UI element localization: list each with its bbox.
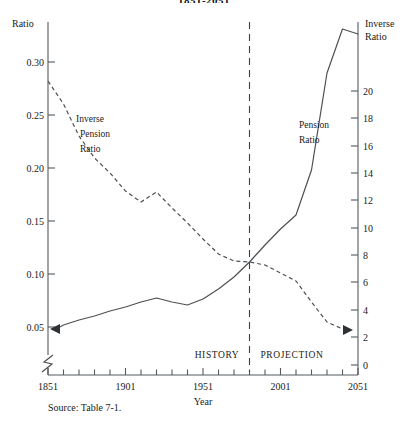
right-axis-ticks bbox=[351, 91, 358, 365]
left-tick-label-020: 0.20 bbox=[27, 163, 45, 174]
chart-plot-area: 0.30 0.25 0.20 0.15 0.10 0.05 Ratio 20 1… bbox=[0, 0, 408, 425]
inverse-pension-ratio-label-line1: Inverse bbox=[76, 114, 104, 124]
pension-ratio-arrow-icon bbox=[50, 324, 60, 334]
right-tick-label-4: 4 bbox=[363, 305, 368, 316]
inverse-pension-ratio-label-line3: Ratio bbox=[80, 144, 101, 154]
source-note: Source: Table 7-1. bbox=[48, 402, 121, 413]
inverse-pension-ratio-label-line2: Pension bbox=[80, 129, 110, 139]
right-axis-title-line2: Ratio bbox=[365, 31, 387, 42]
right-tick-label-16: 16 bbox=[363, 141, 373, 152]
left-tick-label-030: 0.30 bbox=[27, 57, 45, 68]
bottom-axis-title: Year bbox=[194, 396, 213, 407]
left-axis-title: Ratio bbox=[12, 18, 34, 29]
left-tick-label-010: 0.10 bbox=[27, 269, 45, 280]
right-tick-label-8: 8 bbox=[363, 250, 368, 261]
right-tick-label-0: 0 bbox=[363, 360, 368, 371]
bottom-tick-label-2001: 2001 bbox=[271, 381, 291, 392]
left-axis-ticks bbox=[48, 62, 55, 327]
left-tick-label-025: 0.25 bbox=[27, 110, 45, 121]
right-tick-label-12: 12 bbox=[363, 195, 373, 206]
left-tick-label-005: 0.05 bbox=[27, 322, 45, 333]
projection-label: PROJECTION bbox=[260, 350, 323, 360]
inverse-pension-ratio-arrow-icon bbox=[343, 325, 353, 335]
right-tick-label-6: 6 bbox=[363, 277, 368, 288]
right-axis-title-line1: Inverse bbox=[365, 18, 395, 29]
bottom-tick-label-1901: 1901 bbox=[116, 381, 136, 392]
history-label: HISTORY bbox=[195, 350, 240, 360]
right-tick-label-2: 2 bbox=[363, 332, 368, 343]
bottom-tick-label-2051: 2051 bbox=[348, 381, 368, 392]
right-tick-label-18: 18 bbox=[363, 113, 373, 124]
bottom-tick-label-1851: 1851 bbox=[38, 381, 58, 392]
pension-ratio-line bbox=[56, 29, 358, 329]
pension-ratio-label-line1: Pension bbox=[299, 120, 329, 130]
bottom-axis-ticks bbox=[48, 368, 358, 375]
pension-ratio-label-line2: Ratio bbox=[299, 135, 320, 145]
chart-page: 1851-2051 0.30 0.25 0.20 0.15 0.10 0.05 … bbox=[0, 0, 408, 425]
left-tick-label-015: 0.15 bbox=[27, 216, 45, 227]
right-tick-label-20: 20 bbox=[363, 86, 373, 97]
right-tick-label-14: 14 bbox=[363, 168, 373, 179]
bottom-tick-label-1951: 1951 bbox=[193, 381, 213, 392]
right-tick-label-10: 10 bbox=[363, 223, 373, 234]
